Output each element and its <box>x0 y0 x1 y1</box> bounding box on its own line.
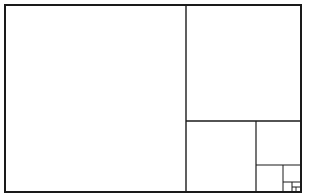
subdivision-lines <box>186 5 301 192</box>
golden-rectangle-diagram <box>0 0 323 194</box>
